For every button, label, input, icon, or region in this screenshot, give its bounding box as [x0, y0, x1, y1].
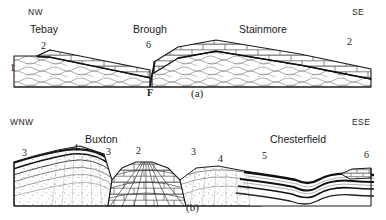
compass-label-nw: NW	[28, 8, 43, 17]
unit-label-b-5: 5	[262, 151, 267, 161]
unit-label-b-4-west: 4	[73, 143, 78, 153]
fault-label-f: F	[147, 88, 153, 98]
place-label-buxton: Buxton	[85, 134, 118, 145]
place-label-tebay: Tebay	[30, 24, 58, 35]
unit-label-a-1: 1	[10, 63, 15, 73]
unit-label-a-2-west: 2	[41, 41, 46, 51]
unit-label-b-3-mid-west: 3	[106, 147, 111, 157]
unit-2-limestone-core	[108, 156, 186, 206]
panel-b-caption: (b)	[186, 202, 199, 213]
compass-label-wnw: WNW	[10, 118, 33, 127]
unit-label-b-3-mid-east: 3	[191, 147, 196, 157]
compass-label-ese: ESE	[352, 118, 370, 127]
panel-a-caption: (a)	[191, 88, 203, 99]
unit-label-a-6: 6	[146, 40, 151, 50]
unit-label-a-2-east: 2	[347, 37, 352, 47]
unit-label-b-2-core: 2	[136, 146, 141, 156]
cross-section-panel-b: WNW ESE Buxton Chesterfield 3 4 3 2 3 4 …	[0, 110, 386, 220]
place-label-chesterfield: Chesterfield	[270, 134, 326, 145]
unit-label-b-6: 6	[364, 150, 369, 160]
compass-label-se: SE	[352, 8, 364, 17]
unit-label-b-3-west: 3	[22, 148, 27, 158]
cross-section-panel-a: NW SE Tebay Brough Stainmore 1 2 6 2 F (…	[0, 0, 386, 110]
unit-label-b-4-east: 4	[218, 154, 223, 164]
place-label-stainmore: Stainmore	[239, 24, 287, 35]
geological-cross-section-figure: NW SE Tebay Brough Stainmore 1 2 6 2 F (…	[0, 0, 386, 220]
place-label-brough: Brough	[133, 24, 167, 35]
